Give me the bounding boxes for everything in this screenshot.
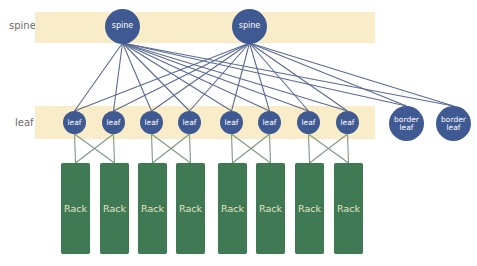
leaf-node: leaf [63, 111, 86, 134]
leaf-node: leaf [178, 111, 201, 134]
rack: Rack [334, 163, 363, 254]
rack: Rack [138, 163, 167, 254]
rack: Rack [256, 163, 285, 254]
rack: Rack [295, 163, 324, 254]
leaf-rack-links [75, 134, 349, 163]
border-leaf-node: border leaf [436, 106, 471, 141]
border-leaf-label-line2: leaf [400, 124, 414, 132]
rack: Rack [61, 163, 90, 254]
rack: Rack [176, 163, 205, 254]
rack: Rack [218, 163, 247, 254]
leaf-node: leaf [220, 111, 243, 134]
border-leaf-label-line2: leaf [447, 124, 461, 132]
border-leaf-node: border leaf [389, 106, 424, 141]
leaf-node: leaf [258, 111, 281, 134]
spine-node: spine [232, 9, 267, 44]
leaf-node: leaf [102, 111, 125, 134]
rack: Rack [100, 163, 129, 254]
spine-leaf-diagram: spine leaf spine spine leaf leaf leaf le… [0, 0, 477, 266]
leaf-node: leaf [297, 111, 320, 134]
leaf-node: leaf [336, 111, 359, 134]
leaf-node: leaf [140, 111, 163, 134]
spine-node: spine [105, 9, 140, 44]
spine-leaf-links [75, 43, 454, 111]
